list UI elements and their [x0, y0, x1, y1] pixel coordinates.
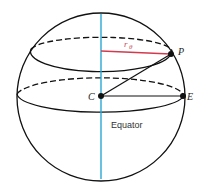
label-c: C: [88, 91, 95, 102]
label-p: P: [177, 46, 184, 57]
label-equator: Equator: [111, 120, 143, 130]
label-r: r: [124, 39, 128, 49]
label-r-subscript: θ: [129, 43, 133, 51]
point-e: [180, 93, 186, 99]
line-cp: [101, 54, 171, 96]
sphere-diagram: r θ P C E Equator: [0, 0, 204, 192]
label-e: E: [186, 91, 193, 102]
radius-r-theta-line: [101, 51, 171, 54]
point-c: [98, 93, 104, 99]
point-p: [168, 51, 174, 57]
